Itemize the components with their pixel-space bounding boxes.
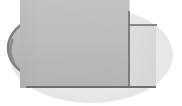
geometric-figure-svg (0, 0, 182, 106)
notch-region-group (129, 25, 156, 87)
figure-canvas: Shaded elliptical solid with rectangular… (0, 0, 182, 106)
rectangular-notch-panel (129, 25, 156, 87)
